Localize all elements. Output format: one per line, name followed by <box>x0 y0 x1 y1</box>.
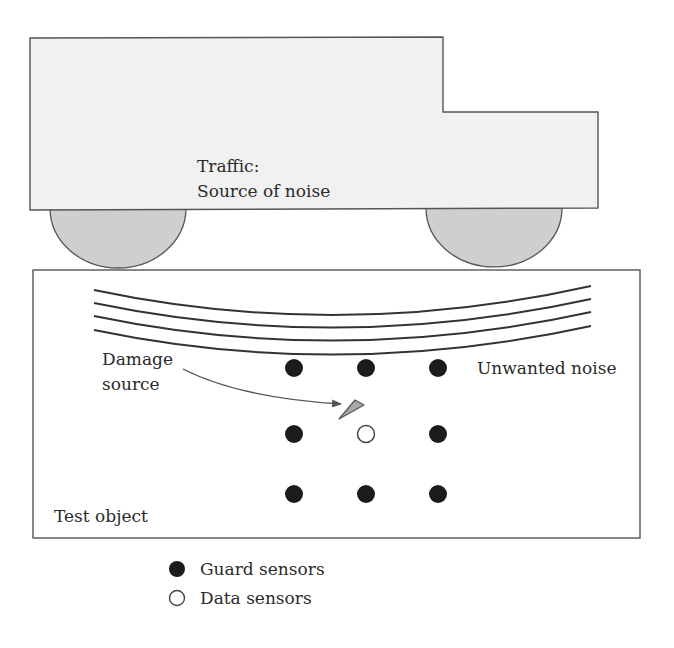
guard-sensor <box>285 359 303 377</box>
test-object-label: Test object <box>54 506 148 526</box>
truck-label-line2: Source of noise <box>197 181 330 201</box>
guard-sensor <box>429 425 447 443</box>
noise-waves <box>94 286 591 355</box>
guard-sensor-legend-icon <box>169 561 185 577</box>
unwanted-noise-label: Unwanted noise <box>477 358 617 378</box>
crack-icon <box>339 400 364 419</box>
damage-label-line1: Damage <box>102 349 173 369</box>
wheel-left <box>50 208 186 268</box>
truck-wheels <box>50 208 562 268</box>
damage-label-line2: source <box>102 374 160 394</box>
guard-sensor <box>357 359 375 377</box>
truck-label-line1: Traffic: <box>197 156 259 176</box>
data-sensor <box>358 426 375 443</box>
sensor-grid <box>285 359 447 503</box>
legend-data-label: Data sensors <box>200 588 312 608</box>
sensor-noise-diagram: Traffic: Source of noise Unwanted noise … <box>0 0 674 648</box>
guard-sensor <box>285 425 303 443</box>
guard-sensor <box>357 485 375 503</box>
guard-sensor <box>429 485 447 503</box>
data-sensor-legend-icon <box>170 591 185 606</box>
legend: Guard sensors Data sensors <box>169 559 325 608</box>
legend-guard-label: Guard sensors <box>200 559 325 579</box>
guard-sensor <box>429 359 447 377</box>
guard-sensor <box>285 485 303 503</box>
wheel-right <box>426 208 562 267</box>
damage-arrow <box>183 369 341 404</box>
noise-wave-1 <box>94 286 591 315</box>
